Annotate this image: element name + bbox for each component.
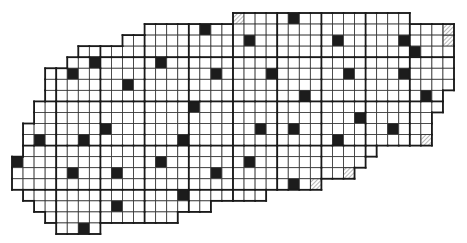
- grid-cell: [332, 46, 343, 57]
- filled-cell: [299, 90, 310, 101]
- filled-cell: [244, 35, 255, 46]
- grid-cell: [332, 24, 343, 35]
- grid-cell: [134, 90, 145, 101]
- grid-cell: [67, 124, 78, 135]
- grid-cell: [244, 124, 255, 135]
- grid-cell: [233, 157, 244, 168]
- grid-cell: [421, 68, 432, 79]
- grid-cell: [34, 201, 45, 212]
- grid-cell: [134, 201, 145, 212]
- filled-cell: [211, 68, 222, 79]
- filled-cell: [255, 124, 266, 135]
- grid-cell: [388, 46, 399, 57]
- grid-cell: [23, 190, 34, 201]
- grid-cell: [45, 179, 56, 190]
- grid-cell: [399, 57, 410, 68]
- grid-cell: [443, 68, 454, 79]
- grid-cell: [277, 24, 288, 35]
- grid-cell: [200, 35, 211, 46]
- grid-cell: [56, 68, 67, 79]
- grid-cell: [23, 168, 34, 179]
- grid-cell: [89, 135, 100, 146]
- grid-cell: [344, 101, 355, 112]
- grid-cell: [299, 24, 310, 35]
- grid-cell: [377, 124, 388, 135]
- grid-cell: [399, 79, 410, 90]
- grid-cell: [355, 46, 366, 57]
- filled-cell: [288, 13, 299, 24]
- grid-cell: [421, 24, 432, 35]
- grid-cell: [34, 179, 45, 190]
- grid-cell: [255, 35, 266, 46]
- grid-cell: [310, 90, 321, 101]
- grid-cell: [111, 135, 122, 146]
- grid-cell: [288, 168, 299, 179]
- grid-cell: [321, 112, 332, 123]
- grid-cell: [123, 68, 134, 79]
- grid-cell: [111, 146, 122, 157]
- grid-cell: [78, 46, 89, 57]
- grid-cell: [45, 146, 56, 157]
- filled-cell: [189, 101, 200, 112]
- grid-cell: [355, 90, 366, 101]
- grid-cell: [222, 35, 233, 46]
- grid-cell: [145, 90, 156, 101]
- grid-cell: [321, 13, 332, 24]
- grid-cell: [266, 135, 277, 146]
- grid-cell: [321, 124, 332, 135]
- grid-cell: [67, 201, 78, 212]
- filled-cell: [244, 157, 255, 168]
- grid-cell: [255, 168, 266, 179]
- grid-cell: [344, 24, 355, 35]
- grid-cell: [299, 46, 310, 57]
- grid-cell: [178, 68, 189, 79]
- grid-cell: [366, 79, 377, 90]
- grid-cell: [288, 146, 299, 157]
- grid-cell: [145, 24, 156, 35]
- grid-cell: [366, 24, 377, 35]
- grid-cell: [366, 146, 377, 157]
- grid-cell: [189, 168, 200, 179]
- grid-cell: [388, 13, 399, 24]
- grid-cell: [410, 35, 421, 46]
- grid-cell: [233, 24, 244, 35]
- grid-cell: [45, 201, 56, 212]
- grid-cell: [255, 146, 266, 157]
- grid-cell: [167, 101, 178, 112]
- grid-cell: [34, 190, 45, 201]
- grid-cell: [78, 68, 89, 79]
- grid-cell: [344, 90, 355, 101]
- grid-cell: [310, 101, 321, 112]
- grid-cell: [377, 90, 388, 101]
- grid-cell: [178, 124, 189, 135]
- grid-cell: [299, 146, 310, 157]
- grid-cell: [89, 157, 100, 168]
- grid-cell: [67, 179, 78, 190]
- grid-cell: [211, 135, 222, 146]
- grid-cell: [23, 124, 34, 135]
- grid-cell: [156, 179, 167, 190]
- grid-cell: [344, 79, 355, 90]
- grid-cell: [167, 168, 178, 179]
- grid-cell: [189, 112, 200, 123]
- grid-cell: [355, 57, 366, 68]
- grid-cell: [299, 101, 310, 112]
- grid-cell: [222, 101, 233, 112]
- grid-cell: [123, 112, 134, 123]
- grid-cell: [388, 101, 399, 112]
- grid-cell: [255, 24, 266, 35]
- grid-cell: [399, 24, 410, 35]
- grid-cell: [255, 46, 266, 57]
- grid-cell: [332, 112, 343, 123]
- grid-cell: [355, 146, 366, 157]
- grid-cell: [443, 46, 454, 57]
- grid-cell: [410, 101, 421, 112]
- grid-cell: [45, 68, 56, 79]
- grid-cell: [67, 212, 78, 223]
- grid-cell: [123, 90, 134, 101]
- grid-cell: [410, 112, 421, 123]
- grid-cell: [355, 13, 366, 24]
- grid-cell: [211, 124, 222, 135]
- grid-cell: [189, 46, 200, 57]
- grid-cell: [123, 190, 134, 201]
